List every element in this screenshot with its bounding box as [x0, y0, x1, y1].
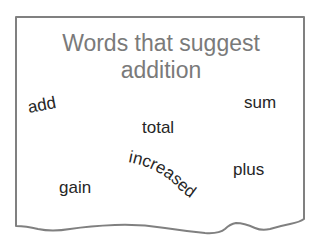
word-increased: increased — [127, 147, 199, 201]
svg-text:increased: increased — [127, 147, 199, 201]
word-increased-curved: increased — [0, 0, 323, 248]
